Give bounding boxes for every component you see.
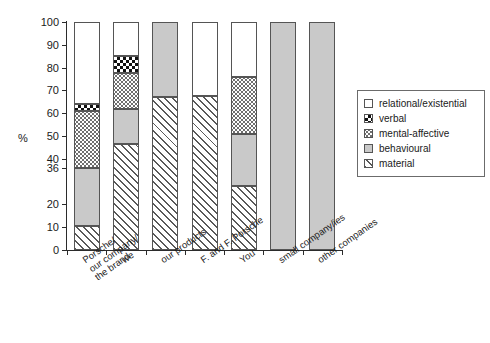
legend: relational/existentialverbalmental-affec…	[357, 90, 485, 177]
y-tick-mark	[62, 45, 67, 46]
bar-column[interactable]	[74, 22, 100, 250]
bar-segment[interactable]	[113, 56, 139, 73]
legend-swatch-icon	[364, 99, 373, 108]
y-tick-label: 60	[47, 108, 59, 119]
y-tick-mark	[62, 159, 67, 160]
y-tick-label: 80	[47, 62, 59, 73]
legend-item-label: relational/existential	[379, 99, 467, 109]
bar-segment[interactable]	[74, 22, 100, 104]
legend-swatch-icon	[364, 114, 373, 123]
legend-items: relational/existentialverbalmental-affec…	[364, 96, 479, 171]
y-tick-label: 10	[47, 222, 59, 233]
bar-column[interactable]	[231, 22, 257, 250]
bar-segment[interactable]	[231, 22, 257, 77]
y-tick-label: 90	[47, 39, 59, 50]
x-tick-mark	[263, 250, 264, 255]
y-tick-label: 20	[47, 199, 59, 210]
plot-area: 1009080706050403620100	[67, 22, 342, 250]
legend-item-label: verbal	[379, 114, 406, 124]
legend-item[interactable]: material	[364, 156, 479, 171]
y-tick-mark	[62, 113, 67, 114]
x-tick-mark	[67, 250, 68, 255]
bar-segment[interactable]	[113, 22, 139, 56]
bar-segment[interactable]	[152, 97, 178, 250]
bar-column[interactable]	[270, 22, 296, 250]
bar-column[interactable]	[152, 22, 178, 250]
legend-item-label: material	[379, 159, 415, 169]
legend-item-label: mental-affective	[379, 129, 449, 139]
y-tick-label: 100	[41, 17, 59, 28]
y-tick-label: 36	[47, 162, 59, 173]
bar-segment[interactable]	[270, 22, 296, 250]
y-tick-mark	[62, 136, 67, 137]
bar-segment[interactable]	[192, 22, 218, 96]
legend-swatch-icon	[364, 159, 373, 168]
bar-segment[interactable]	[74, 168, 100, 226]
y-tick-mark	[62, 168, 67, 169]
bar-segment[interactable]	[113, 73, 139, 108]
y-axis-title: %	[18, 133, 28, 144]
stacked-bar-chart: % 1009080706050403620100 Porsche/our com…	[0, 0, 490, 343]
bar-segment[interactable]	[192, 96, 218, 250]
legend-swatch-icon	[364, 144, 373, 153]
y-tick-mark	[62, 68, 67, 69]
y-tick-mark	[62, 227, 67, 228]
bar-segment[interactable]	[74, 104, 100, 111]
x-tick-mark	[146, 250, 147, 255]
legend-item-label: behavioural	[379, 144, 431, 154]
y-tick-label: 70	[47, 85, 59, 96]
bar-column[interactable]	[113, 22, 139, 250]
bar-segment[interactable]	[231, 134, 257, 186]
y-tick-label: 0	[53, 245, 59, 256]
legend-item[interactable]: mental-affective	[364, 126, 479, 141]
y-tick-mark	[62, 204, 67, 205]
bar-segment[interactable]	[231, 77, 257, 134]
legend-item[interactable]: relational/existential	[364, 96, 479, 111]
legend-swatch-icon	[364, 129, 373, 138]
y-tick-label: 50	[47, 131, 59, 142]
legend-item[interactable]: behavioural	[364, 141, 479, 156]
bar-column[interactable]	[192, 22, 218, 250]
y-tick-mark	[62, 22, 67, 23]
legend-item[interactable]: verbal	[364, 111, 479, 126]
bar-segment[interactable]	[74, 111, 100, 168]
bar-segment[interactable]	[152, 22, 178, 97]
bar-segment[interactable]	[309, 22, 335, 250]
y-tick-mark	[62, 90, 67, 91]
bar-segment[interactable]	[113, 109, 139, 144]
bar-column[interactable]	[309, 22, 335, 250]
